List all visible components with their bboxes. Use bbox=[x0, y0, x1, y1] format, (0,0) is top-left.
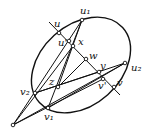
label-u-prime: u' bbox=[58, 38, 67, 48]
point-w bbox=[84, 57, 88, 61]
label-w: w bbox=[89, 51, 98, 61]
label-u: u bbox=[54, 19, 60, 29]
label-x: x bbox=[78, 37, 84, 47]
point-u1 bbox=[80, 18, 84, 22]
projective-conic-figure bbox=[0, 0, 151, 137]
label-v-prime: v' bbox=[98, 81, 106, 91]
point-origin bbox=[11, 123, 15, 127]
diagram: u₁ u u' x w y u₂ v' v z v₂ v₁ bbox=[0, 0, 151, 137]
label-y: y bbox=[100, 61, 106, 71]
label-v1: v₁ bbox=[44, 112, 54, 122]
label-u1: u₁ bbox=[80, 6, 90, 16]
point-v bbox=[112, 85, 116, 89]
line-z-w bbox=[58, 59, 86, 87]
point-u2 bbox=[123, 61, 127, 65]
point-u bbox=[57, 31, 61, 35]
label-v2: v₂ bbox=[20, 87, 30, 97]
point-v2 bbox=[33, 91, 37, 95]
point-v1 bbox=[46, 106, 50, 110]
point-x bbox=[71, 44, 75, 48]
point-z bbox=[56, 85, 60, 89]
label-u2: u₂ bbox=[131, 63, 141, 73]
point-u-prime bbox=[67, 39, 71, 43]
label-v: v bbox=[117, 78, 123, 88]
label-z: z bbox=[49, 77, 54, 87]
